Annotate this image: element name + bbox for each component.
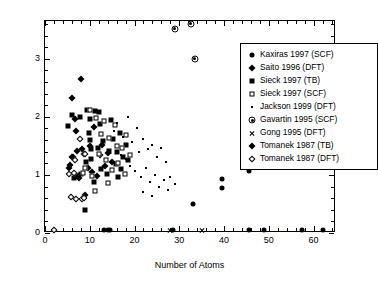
y-tick-right <box>331 36 334 37</box>
data-point-filled-square <box>126 157 131 162</box>
x-tick <box>206 228 207 231</box>
x-tick-top <box>323 21 324 24</box>
data-point-open-diamond <box>66 170 73 177</box>
x-axis-label: Number of Atoms <box>44 260 335 270</box>
y-tick-right <box>329 175 334 176</box>
x-tick <box>332 228 333 231</box>
y-tick <box>45 233 50 234</box>
data-point-filled-square <box>120 155 125 160</box>
x-tick-top <box>287 21 288 24</box>
data-point-open-diamond <box>67 193 74 200</box>
x-tick <box>215 228 216 231</box>
data-point-filled-square <box>97 121 102 126</box>
legend-marker-icon <box>244 48 260 61</box>
legend-item-label: Kaxiras 1997 (SCF) <box>260 48 334 61</box>
x-tick-top <box>179 21 180 26</box>
x-tick <box>305 228 306 231</box>
data-point-filled-square <box>66 124 71 129</box>
x-tick-top <box>188 21 189 24</box>
data-point-filled-diamond <box>101 162 108 169</box>
y-tick <box>45 210 48 211</box>
y-tick-right <box>331 210 334 211</box>
legend-marker-icon <box>244 126 260 139</box>
x-tick-top <box>117 21 118 24</box>
data-point-open-square <box>94 115 99 120</box>
legend-item-label: Saito 1996 (DFT) <box>260 61 324 74</box>
data-point-filled-square <box>101 139 106 144</box>
y-tick-right <box>331 24 334 25</box>
x-tick-top <box>63 21 64 24</box>
x-tick-top <box>233 21 234 24</box>
data-point-filled-diamond <box>78 146 85 153</box>
data-point-open-square <box>112 122 117 127</box>
x-tick-top <box>72 21 73 24</box>
x-tick <box>126 228 127 231</box>
legend-item-4: Jackson 1999 (DFT) <box>244 100 373 113</box>
data-point-filled-circle <box>219 176 224 181</box>
data-point-filled-square <box>88 138 93 143</box>
data-point-filled-diamond <box>75 174 82 181</box>
data-point-small-dot <box>138 151 140 153</box>
data-point-filled-circle <box>190 201 195 206</box>
data-point-open-square <box>110 168 115 173</box>
data-point-small-dot <box>151 144 153 146</box>
data-point-open-square <box>102 119 107 124</box>
x-tick-top <box>215 21 216 24</box>
x-tick <box>260 228 261 231</box>
data-point-small-dot <box>165 161 167 163</box>
data-point-filled-square <box>93 109 98 114</box>
cross-icon <box>249 130 255 136</box>
x-tick-top <box>260 21 261 24</box>
y-tick-right <box>329 233 334 234</box>
legend-marker-icon <box>244 152 260 165</box>
legend-item-label: Tomanek 1987 (TB) <box>260 139 334 152</box>
data-point-open-square <box>122 171 127 176</box>
data-point-open-square <box>114 143 119 148</box>
data-point-small-dot <box>163 179 165 181</box>
x-tick <box>323 228 324 231</box>
data-point-filled-square <box>118 131 123 136</box>
y-tick <box>45 36 48 37</box>
x-tick-top <box>170 21 171 24</box>
data-point-filled-square <box>92 179 97 184</box>
x-tick-label: 0 <box>30 236 60 245</box>
data-point-filled-square <box>95 146 100 151</box>
x-tick-top <box>224 21 225 26</box>
x-tick <box>81 228 82 231</box>
data-point-open-square <box>103 157 108 162</box>
data-point-open-square <box>128 153 133 158</box>
data-point-open-square <box>99 132 104 137</box>
y-tick-label: 3 <box>18 54 40 63</box>
filled-circle-icon <box>250 53 255 58</box>
data-point-filled-diamond <box>68 95 75 102</box>
data-point-filled-circle <box>262 228 267 233</box>
y-tick-label: 2 <box>18 112 40 121</box>
data-point-open-square <box>83 165 88 170</box>
x-tick-top <box>143 21 144 24</box>
data-point-small-dot <box>158 186 160 188</box>
x-tick-top <box>90 21 91 26</box>
data-point-filled-diamond <box>69 154 76 161</box>
x-tick <box>135 226 136 231</box>
data-point-small-dot <box>154 174 156 176</box>
data-point-open-diamond <box>78 196 85 203</box>
x-tick <box>99 228 100 231</box>
data-point-filled-diamond <box>73 128 80 135</box>
y-tick-right <box>331 198 334 199</box>
legend-item-3: Sieck 1997 (SCF) <box>244 87 373 100</box>
data-point-filled-square <box>109 118 114 123</box>
data-point-small-dot <box>122 136 124 138</box>
x-tick-top <box>251 21 252 24</box>
legend-item-8: Tomanek 1987 (DFT) <box>244 152 373 165</box>
x-tick-top <box>242 21 243 24</box>
data-point-small-dot <box>145 167 147 169</box>
y-tick <box>45 59 50 60</box>
data-point-filled-diamond <box>104 149 111 156</box>
y-tick <box>45 105 48 106</box>
data-point-cross <box>199 227 205 233</box>
x-tick <box>251 228 252 231</box>
x-tick-top <box>135 21 136 26</box>
x-tick <box>287 228 288 231</box>
open-diamond-icon <box>248 155 255 162</box>
data-point-filled-diamond <box>91 124 98 131</box>
